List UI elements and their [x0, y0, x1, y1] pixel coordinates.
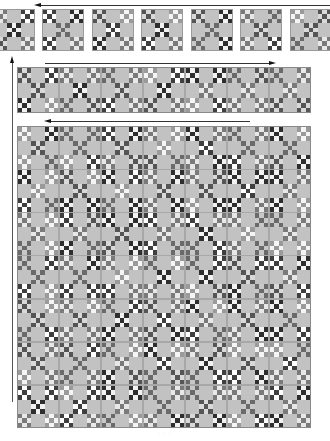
quilt-block — [59, 385, 101, 428]
quilt-block — [17, 126, 59, 170]
quilt-block — [191, 9, 233, 51]
quilt-block — [185, 67, 227, 113]
quilt-block — [227, 299, 269, 343]
quilt-block — [185, 342, 227, 386]
quilt-block — [269, 126, 311, 170]
quilt-block — [17, 255, 59, 299]
quilt-block — [227, 126, 269, 170]
quilt-block — [143, 126, 185, 170]
quilt-block — [143, 169, 185, 213]
quilt-block — [269, 385, 311, 428]
quilt-block — [227, 169, 269, 213]
quilt-block — [185, 212, 227, 256]
quilt-block — [269, 342, 311, 386]
quilt-block — [59, 299, 101, 343]
arrow-left-icon — [50, 121, 250, 122]
quilt-block — [269, 255, 311, 299]
quilt-block — [101, 255, 143, 299]
quilt-block — [227, 255, 269, 299]
caption: · · · — [0, 430, 330, 437]
quilt-block — [269, 299, 311, 343]
quilt-block — [59, 342, 101, 386]
quilt-assembly-diagram: · · · — [0, 0, 330, 441]
quilt-block — [143, 212, 185, 256]
quilt-block — [59, 126, 101, 170]
quilt-block — [101, 126, 143, 170]
quilt-block — [59, 255, 101, 299]
quilt-block — [269, 67, 311, 113]
quilt-block — [92, 9, 134, 51]
quilt-block — [143, 342, 185, 386]
quilt-block — [227, 67, 269, 113]
quilt-block — [42, 9, 84, 51]
quilt-block — [101, 385, 143, 428]
quilt-block — [185, 126, 227, 170]
quilt-block — [17, 67, 59, 113]
quilt-block — [101, 342, 143, 386]
quilt-block — [17, 212, 59, 256]
quilt-block — [227, 385, 269, 428]
quilt-block — [240, 9, 282, 51]
quilt-block — [269, 169, 311, 213]
quilt-block — [185, 299, 227, 343]
quilt-block — [101, 67, 143, 113]
quilt-block — [0, 9, 35, 51]
quilt-block — [101, 212, 143, 256]
quilt-block — [185, 169, 227, 213]
arrow-up-icon — [12, 62, 13, 402]
arrow-right-icon — [45, 63, 270, 64]
assembled-quilt — [17, 126, 311, 428]
quilt-block — [185, 385, 227, 428]
quilt-block — [143, 67, 185, 113]
quilt-block — [59, 67, 101, 113]
quilt-block — [101, 299, 143, 343]
quilt-block — [227, 212, 269, 256]
row-strip — [17, 67, 311, 113]
quilt-block — [17, 299, 59, 343]
quilt-block — [143, 385, 185, 428]
quilt-block — [269, 212, 311, 256]
quilt-block — [141, 9, 183, 51]
quilt-block — [59, 169, 101, 213]
quilt-block — [17, 342, 59, 386]
quilt-block — [143, 255, 185, 299]
quilt-block — [185, 255, 227, 299]
quilt-block — [101, 169, 143, 213]
arrow-left-icon — [40, 5, 330, 6]
quilt-block — [290, 9, 330, 51]
quilt-block — [227, 342, 269, 386]
quilt-block — [17, 385, 59, 428]
quilt-block — [143, 299, 185, 343]
quilt-block — [59, 212, 101, 256]
quilt-block — [17, 169, 59, 213]
